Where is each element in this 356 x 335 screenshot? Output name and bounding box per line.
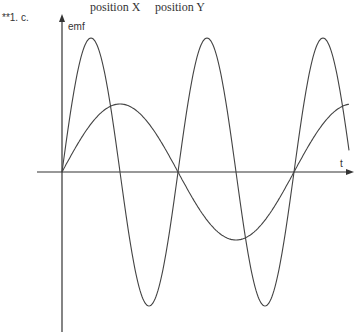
y-arrow-icon [59, 14, 65, 22]
x-arrow-icon [346, 169, 354, 175]
plot [0, 0, 356, 335]
diagram: **1. c. position X position Y emf t [0, 0, 356, 335]
